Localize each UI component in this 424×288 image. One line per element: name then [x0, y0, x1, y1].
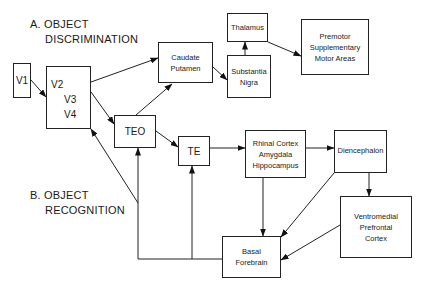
section-b-title: B. OBJECT RECOGNITION: [30, 188, 125, 218]
node-rhinal-label: Rhinal Cortex: [253, 138, 298, 149]
node-premotor-label: Premotor: [320, 31, 351, 42]
node-v3-label: V3: [51, 92, 76, 107]
node-supplementary-label: Supplementary: [310, 42, 360, 53]
node-teo: TEO: [114, 115, 156, 148]
section-b-line2: RECOGNITION: [30, 203, 125, 218]
node-te-label: TE: [188, 144, 201, 159]
node-motor-areas-label: Motor Areas: [315, 53, 355, 64]
node-teo-label: TEO: [125, 124, 146, 139]
node-thalamus: Thalamus: [227, 13, 268, 42]
node-diencephalon-label: Diencephalon: [338, 145, 384, 156]
section-a-line1: A. OBJECT: [30, 17, 138, 32]
node-basal-forebrain: Basal Forebrain: [222, 236, 281, 278]
node-caudate-putamen: Caudate Putamen: [158, 42, 213, 83]
node-cortex-label: Cortex: [365, 233, 387, 244]
node-nigra-label: Nigra: [240, 77, 258, 88]
node-hippocampus-label: Hippocampus: [253, 160, 299, 171]
section-b-line1: B. OBJECT: [30, 188, 125, 203]
node-premotor-areas: Premotor Supplementary Motor Areas: [301, 19, 369, 75]
node-v4-label: V4: [51, 107, 76, 122]
node-basal-label: Basal: [242, 246, 261, 257]
section-a-line2: DISCRIMINATION: [30, 32, 138, 47]
node-diencephalon: Diencephalon: [334, 130, 387, 173]
node-v2-v3-v4: V2 V3 V4: [46, 66, 91, 129]
node-ventromedial-label: Ventromedial: [354, 211, 398, 222]
node-ventromedial-prefrontal-cortex: Ventromedial Prefrontal Cortex: [340, 196, 412, 258]
node-substantia-nigra: Substantia Nigra: [227, 55, 271, 98]
node-thalamus-label: Thalamus: [231, 22, 264, 33]
node-prefrontal-label: Prefrontal: [360, 222, 393, 233]
node-te: TE: [178, 136, 210, 166]
node-substantia-label: Substantia: [231, 66, 266, 77]
node-caudate-label: Caudate: [171, 52, 199, 63]
section-a-title: A. OBJECT DISCRIMINATION: [30, 17, 138, 47]
node-forebrain-label: Forebrain: [235, 257, 267, 268]
node-amygdala-label: Amygdala: [259, 149, 292, 160]
node-v1: V1: [13, 63, 31, 98]
node-v2-label: V2: [51, 77, 63, 92]
node-rhinal-amygdala-hippocampus: Rhinal Cortex Amygdala Hippocampus: [245, 130, 306, 178]
node-v1-label: V1: [16, 73, 28, 88]
node-putamen-label: Putamen: [170, 63, 200, 74]
